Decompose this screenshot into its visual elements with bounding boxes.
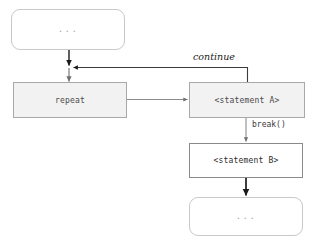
edge-label-continue: continue — [193, 51, 235, 62]
node-repeat[interactable]: repeat — [13, 82, 127, 118]
node-statement-b-label: <statement B> — [213, 156, 278, 165]
node-bottom-terminal[interactable]: ... — [189, 197, 303, 236]
node-top-label: ... — [58, 25, 78, 34]
node-repeat-label: repeat — [55, 96, 85, 105]
node-bottom-label: ... — [236, 212, 256, 221]
diagram-canvas: ... repeat <statement A> <statement B> .… — [0, 0, 312, 248]
node-statement-b[interactable]: <statement B> — [189, 143, 303, 178]
edge-continue-loop — [74, 68, 248, 83]
edge-label-break: break() — [252, 120, 286, 129]
node-statement-a-label: <statement A> — [214, 96, 279, 105]
node-top-terminal[interactable]: ... — [11, 9, 125, 50]
node-statement-a[interactable]: <statement A> — [189, 82, 305, 118]
